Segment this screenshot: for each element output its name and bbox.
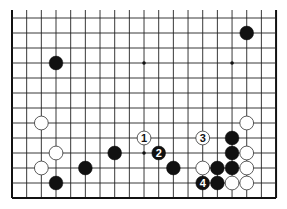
black-stone <box>49 176 63 190</box>
star-point <box>230 61 234 65</box>
black-stone <box>166 161 180 175</box>
star-point <box>142 151 146 155</box>
black-stone <box>210 176 224 190</box>
black-stone <box>240 26 254 40</box>
white-stone <box>240 146 254 160</box>
black-stone <box>49 56 63 70</box>
black-stone <box>108 146 122 160</box>
star-point <box>142 61 146 65</box>
move-number-label: 4 <box>200 177 207 189</box>
white-stone <box>49 146 63 160</box>
black-stone <box>210 161 224 175</box>
black-stone: 4 <box>196 176 210 190</box>
white-stone <box>196 161 210 175</box>
black-stone <box>225 161 239 175</box>
white-stone: 3 <box>196 131 210 145</box>
white-stone <box>34 161 48 175</box>
white-stone: 1 <box>137 131 151 145</box>
black-stone: 2 <box>152 146 166 160</box>
white-stone <box>240 176 254 190</box>
white-stone <box>240 116 254 130</box>
go-board: 1234 <box>0 0 287 209</box>
move-number-label: 3 <box>200 132 206 144</box>
move-number-label: 1 <box>141 132 147 144</box>
white-stone <box>225 176 239 190</box>
white-stone <box>240 161 254 175</box>
black-stone <box>78 161 92 175</box>
black-stone <box>225 131 239 145</box>
white-stone <box>34 116 48 130</box>
black-stone <box>225 146 239 160</box>
move-number-label: 2 <box>156 147 162 159</box>
